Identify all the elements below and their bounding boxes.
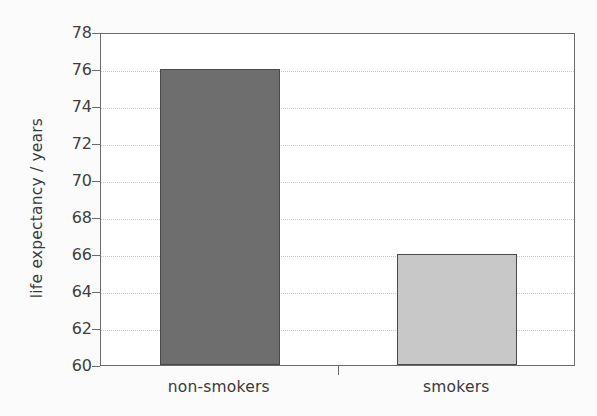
- y-axis-tick-mark: [92, 292, 100, 293]
- y-axis-tick-mark: [92, 255, 100, 256]
- y-axis-tick-mark: [92, 70, 100, 71]
- y-axis-tick-label: 66: [48, 247, 92, 263]
- y-axis-tick-mark: [92, 329, 100, 330]
- y-axis-tick-label: 64: [48, 284, 92, 300]
- y-axis-tick-label: 76: [48, 62, 92, 78]
- x-axis-tick-label: smokers: [423, 378, 489, 396]
- bar-non-smokers: [160, 69, 280, 365]
- y-axis-tick-mark: [92, 181, 100, 182]
- x-axis-tick-label: non-smokers: [168, 378, 270, 396]
- y-axis-tick-label: 70: [48, 173, 92, 189]
- y-axis-tick-label: 60: [48, 358, 92, 374]
- y-axis-tick-mark: [92, 218, 100, 219]
- y-axis-tick-mark: [92, 144, 100, 145]
- plot-area: [100, 33, 575, 366]
- y-axis-tick-label: 72: [48, 136, 92, 152]
- y-axis-tick-mark: [92, 107, 100, 108]
- y-axis-tick-labels: 60626466687072747678: [48, 0, 92, 416]
- x-axis-tick-mark: [338, 366, 339, 375]
- y-axis-tick-mark: [92, 366, 100, 367]
- bar-smokers: [397, 254, 517, 365]
- y-axis-tick-label: 74: [48, 99, 92, 115]
- y-axis-tick-mark: [92, 33, 100, 34]
- bar-chart: life expectancy / years 6062646668707274…: [0, 0, 597, 416]
- y-axis-tick-label: 68: [48, 210, 92, 226]
- y-axis-tick-label: 62: [48, 321, 92, 337]
- y-axis-tick-label: 78: [48, 25, 92, 41]
